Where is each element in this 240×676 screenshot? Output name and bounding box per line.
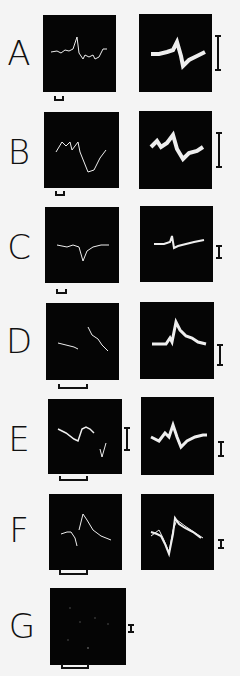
waveform-icon <box>141 494 214 570</box>
trace-panel-a-right <box>139 14 212 92</box>
row-label-d: D <box>2 324 36 358</box>
trace-panel-b-right <box>139 111 212 189</box>
trace-panel-b-left <box>44 112 119 188</box>
trace-panel-f-right <box>141 494 214 570</box>
trace-panel-c-right <box>140 206 213 282</box>
waveform-icon <box>43 15 116 92</box>
waveform-icon <box>50 588 126 665</box>
waveform-icon <box>139 111 212 189</box>
trace-panel-d-right <box>140 302 214 379</box>
time-scale-bar <box>59 479 88 481</box>
waveform-icon <box>139 14 212 92</box>
voltage-scale-bar <box>220 539 222 549</box>
row-label-g: G <box>5 609 39 643</box>
waveform-icon <box>46 303 119 380</box>
time-scale-bar <box>56 292 67 294</box>
time-scale-bar <box>55 194 65 196</box>
voltage-scale-bar <box>130 624 132 633</box>
time-scale-bar <box>61 667 89 669</box>
trace-panel-e-left <box>48 399 122 474</box>
trace-panel-f-left <box>49 494 122 570</box>
waveform-icon <box>49 494 122 570</box>
voltage-scale-bar <box>218 132 220 168</box>
row-label-c: C <box>2 230 36 264</box>
time-scale-bar <box>59 573 88 575</box>
waveform-icon <box>141 397 214 475</box>
waveform-icon <box>45 207 119 283</box>
trace-panel-g-left <box>50 588 126 665</box>
voltage-scale-bar <box>220 441 222 457</box>
row-label-a: A <box>2 36 36 70</box>
row-label-e: E <box>2 422 36 456</box>
time-scale-bar <box>54 99 64 101</box>
waveform-icon <box>48 399 122 474</box>
voltage-scale-bar <box>218 245 220 259</box>
waveform-icon <box>140 206 213 282</box>
trace-panel-e-right <box>141 397 214 475</box>
trace-panel-a-left <box>43 15 116 92</box>
voltage-scale-bar <box>126 427 128 451</box>
trace-panel-d-left <box>46 303 119 380</box>
row-label-b: B <box>2 135 36 169</box>
trace-panel-c-left <box>45 207 119 283</box>
voltage-scale-bar <box>219 344 221 366</box>
waveform-icon <box>140 302 214 379</box>
time-scale-bar <box>58 387 88 389</box>
row-label-f: F <box>2 513 36 547</box>
waveform-icon <box>44 112 119 188</box>
voltage-scale-bar <box>217 35 219 71</box>
